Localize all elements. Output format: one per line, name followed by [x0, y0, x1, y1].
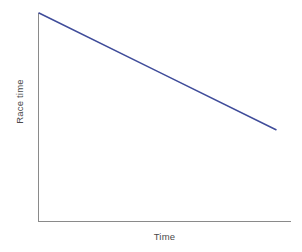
chart-figure: Race time Time — [0, 0, 302, 252]
data-series-line — [39, 13, 276, 130]
y-axis-label: Race time — [14, 67, 25, 137]
x-axis-label: Time — [38, 231, 291, 242]
plot-area — [0, 0, 302, 252]
